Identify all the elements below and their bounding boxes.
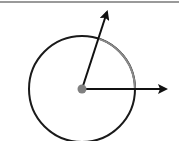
center-point xyxy=(78,85,87,94)
vector-rotated-arrow xyxy=(82,12,107,89)
vector-diagram xyxy=(0,0,179,141)
highlighted-arc xyxy=(98,39,135,89)
